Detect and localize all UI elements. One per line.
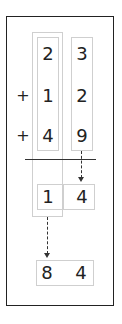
final-result-tens: 8: [37, 263, 57, 283]
ones-digit-1: 3: [72, 44, 92, 64]
dashed-arrow-ones: [81, 151, 82, 178]
tens-digit-3: 4: [38, 126, 58, 146]
ones-digit-3: 9: [72, 126, 92, 146]
plus-sign-1: +: [16, 86, 30, 106]
partial-result-divider: [63, 184, 64, 210]
arrowhead-tens-icon: [44, 253, 50, 258]
arrowhead-ones-icon: [78, 177, 84, 182]
plus-sign-2: +: [16, 126, 30, 146]
partial-result-ones: 4: [72, 187, 92, 207]
sum-line: [25, 159, 96, 160]
dashed-arrow-tens: [47, 217, 48, 254]
ones-digit-2: 2: [72, 86, 92, 106]
partial-result-tens: 1: [38, 187, 58, 207]
tens-digit-1: 2: [38, 44, 58, 64]
tens-digit-2: 1: [38, 86, 58, 106]
final-result-ones: 4: [71, 263, 91, 283]
